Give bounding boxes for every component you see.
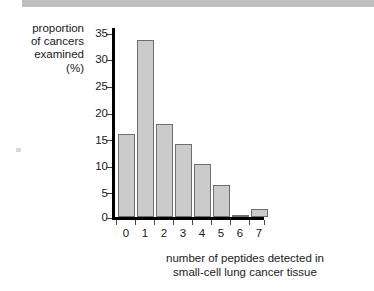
plot-area — [116, 28, 264, 217]
x-tick-mark-7 — [249, 220, 250, 225]
x-tick-label-0: 0 — [117, 227, 135, 240]
y-axis-line — [112, 28, 115, 220]
y-tick-label-15: 15 — [86, 135, 108, 147]
x-tick-label-2: 2 — [155, 227, 173, 240]
bar-6 — [232, 215, 249, 217]
bar-0 — [118, 134, 135, 217]
bar-chart: proportion of cancers examined (%) 35 30… — [0, 0, 374, 291]
bar-4 — [194, 164, 211, 217]
x-tick-mark-end — [264, 220, 265, 225]
bar-1 — [137, 40, 154, 217]
x-tick-label-4: 4 — [193, 227, 211, 240]
y-tick-label-25: 25 — [86, 81, 108, 93]
x-tick-label-7: 7 — [250, 227, 268, 240]
x-tick-label-5: 5 — [212, 227, 230, 240]
y-tick-label-35: 35 — [86, 28, 108, 40]
x-tick-mark-3 — [173, 220, 174, 225]
bar-3 — [175, 144, 192, 217]
x-tick-label-1: 1 — [136, 227, 154, 240]
x-tick-mark-4 — [192, 220, 193, 225]
x-axis-title: number of peptides detected in small-cel… — [120, 252, 370, 279]
y-tick-label-0: 0 — [86, 212, 108, 224]
y-tick-label-20: 20 — [86, 108, 108, 120]
x-tick-mark-0 — [116, 220, 117, 225]
x-tick-mark-5 — [211, 220, 212, 225]
x-tick-label-6: 6 — [231, 227, 249, 240]
bar-7 — [251, 209, 268, 217]
y-tick-label-30: 30 — [86, 54, 108, 66]
bar-2 — [156, 124, 173, 217]
x-tick-mark-6 — [230, 220, 231, 225]
y-tick-label-10: 10 — [86, 161, 108, 173]
x-tick-mark-1 — [135, 220, 136, 225]
y-axis-title: proportion of cancers examined (%) — [8, 22, 84, 75]
x-tick-label-3: 3 — [174, 227, 192, 240]
y-tick-label-5: 5 — [86, 188, 108, 200]
x-tick-mark-2 — [154, 220, 155, 225]
bar-5 — [213, 185, 230, 217]
